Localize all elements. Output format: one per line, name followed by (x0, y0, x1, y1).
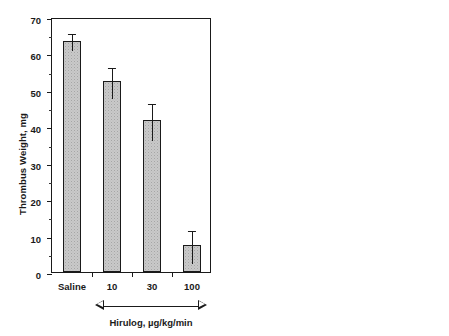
y-tick: 60 (47, 55, 52, 56)
x-tick-label: 10 (107, 281, 118, 292)
x-tick-label: Saline (58, 281, 86, 292)
y-tick-minor (49, 147, 52, 148)
y-tick-label: 10 (30, 233, 41, 244)
y-tick-label: 50 (30, 87, 41, 98)
error-bar (152, 104, 153, 140)
y-tick: 10 (47, 238, 52, 239)
y-axis-title-left: Thrombus Weight, mg (17, 113, 28, 215)
y-tick: 50 (47, 92, 52, 93)
error-bar (192, 231, 193, 265)
y-tick: 40 (47, 128, 52, 129)
bar (63, 41, 81, 272)
x-tick (132, 272, 133, 277)
plot-area-left: 010203040506070 Saline1030100 (51, 18, 211, 273)
error-bar-cap (188, 231, 196, 232)
arrow-line (104, 306, 198, 307)
chart-panel-left: Thrombus Weight, mg 010203040506070 Sali… (0, 0, 225, 336)
y-tick: 0 (47, 274, 52, 275)
y-tick-label: 70 (30, 15, 41, 26)
error-bar (112, 68, 113, 99)
y-tick-minor (49, 219, 52, 220)
x-tick (172, 272, 173, 277)
error-bar (72, 34, 73, 51)
x-axis-title-left: Hirulog, µg/kg/min (109, 317, 192, 328)
x-tick-label: 100 (184, 281, 200, 292)
y-tick: 70 (47, 19, 52, 20)
bar (103, 81, 121, 272)
arrow-right-head-icon (198, 300, 207, 310)
y-tick-minor (49, 183, 52, 184)
figure-root: Thrombus Weight, mg 010203040506070 Sali… (0, 0, 449, 336)
range-arrow-left (95, 300, 207, 312)
error-bar-cap (68, 34, 76, 35)
y-tick-label: 0 (36, 270, 41, 281)
y-tick-minor (49, 110, 52, 111)
y-tick-label: 30 (30, 160, 41, 171)
chart-panel-right: APTT, % Pre 100150200250300350 Saline103… (224, 0, 449, 336)
y-tick-minor (49, 37, 52, 38)
error-bar-cap (108, 68, 116, 69)
y-tick-label: 40 (30, 124, 41, 135)
y-tick-label: 20 (30, 197, 41, 208)
y-tick: 20 (47, 201, 52, 202)
bar (143, 120, 161, 272)
x-tick-label: 30 (147, 281, 158, 292)
y-tick-label: 60 (30, 51, 41, 62)
error-bar-cap (148, 104, 156, 105)
y-tick-minor (49, 74, 52, 75)
arrow-left-head-icon (95, 300, 104, 310)
y-tick: 30 (47, 165, 52, 166)
y-tick-minor (49, 256, 52, 257)
x-tick (92, 272, 93, 277)
